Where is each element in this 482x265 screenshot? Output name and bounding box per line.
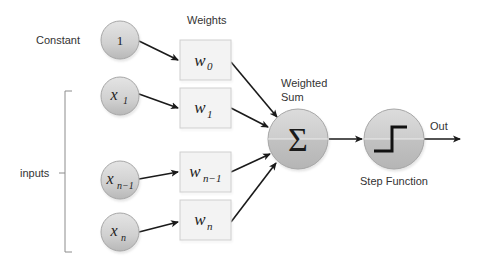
svg-text:x: x [105,170,113,187]
arrow-w0-to-sum [231,62,277,117]
svg-text:1: 1 [117,33,124,48]
svg-text:x: x [109,222,117,239]
svg-text:w: w [194,210,206,229]
arrow-wn1-to-sum [231,154,270,172]
arrow-wn-to-sum [231,163,276,222]
svg-text:w: w [194,51,206,70]
weight-box-wn-1: w n−1 [180,152,231,192]
out-label: Out [430,120,448,132]
svg-text:n: n [207,220,213,232]
perceptron-diagram: Constant Weights inputs Weighted Sum Ste… [0,0,482,265]
arrow-xn1-to-wn1 [139,172,178,179]
step-function-label: Step Function [360,175,428,187]
constant-label: Constant [36,34,80,46]
svg-text:w: w [194,98,206,117]
arrow-const-to-w0 [139,41,178,60]
weight-box-wn: w n [180,200,231,240]
inputs-bracket [59,91,72,252]
arrow-w1-to-sum [231,108,268,127]
arrow-x1-to-w1 [139,94,178,108]
svg-text:n−1: n−1 [117,180,134,191]
svg-text:w: w [189,162,201,181]
weighted-sum-node: Σ [268,109,328,169]
svg-text:x: x [109,86,117,103]
svg-text:n: n [121,232,126,243]
weight-box-w0: w 0 [180,40,231,80]
svg-text:0: 0 [207,60,213,72]
arrow-xn-to-wn [139,222,178,232]
step-function-node [364,109,424,169]
input-node-xn: x n [101,213,139,251]
input-node-xn-1: x n−1 [101,161,139,199]
svg-text:1: 1 [207,108,213,120]
inputs-label: inputs [20,167,50,179]
weighted-sum-label-line2: Sum [281,91,304,103]
svg-text:1: 1 [123,95,128,106]
weighted-sum-label-line1: Weighted [281,77,327,89]
input-node-x1: x 1 [101,77,139,115]
weights-label: Weights [187,14,227,26]
weight-box-w1: w 1 [180,88,231,128]
svg-text:n−1: n−1 [203,172,221,184]
input-node-constant: 1 [101,21,139,59]
sigma-icon: Σ [288,121,308,158]
